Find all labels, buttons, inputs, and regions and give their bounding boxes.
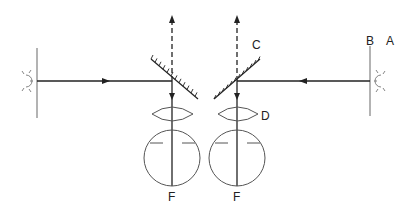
arrow-right-icon [102, 78, 110, 84]
arrow-left-icon [299, 78, 307, 84]
label-c: C [252, 38, 261, 52]
label-f-left: F [168, 190, 175, 204]
arrow-down-icon [234, 93, 240, 100]
light-source-right-icon [374, 70, 385, 92]
beam-left [37, 78, 172, 84]
label-d: D [261, 109, 270, 123]
arrow-up-icon [234, 15, 240, 23]
lens-right [218, 107, 258, 121]
mirror-left [151, 55, 198, 99]
beam-right [237, 78, 370, 84]
light-source-left-icon [22, 70, 33, 92]
arrow-down-icon [169, 93, 175, 100]
label-f-right: F [233, 190, 240, 204]
arrow-up-icon [169, 15, 175, 23]
axis-left [169, 81, 175, 186]
axis-right [234, 81, 240, 186]
reflected-ray-right [234, 15, 240, 81]
optics-diagram: F [0, 0, 415, 206]
label-b: B [366, 34, 374, 48]
reflected-ray-left [169, 15, 175, 81]
label-a: A [386, 34, 394, 48]
